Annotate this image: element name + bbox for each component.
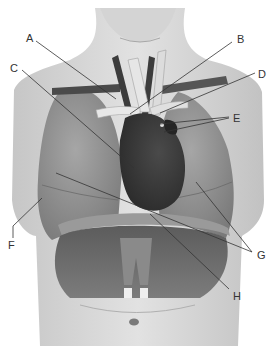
label-e: E	[233, 113, 240, 124]
label-f: F	[8, 240, 15, 251]
label-c: C	[10, 63, 18, 74]
heart	[120, 113, 186, 210]
diaphragm	[55, 213, 230, 298]
label-b: B	[237, 34, 244, 45]
label-h: H	[233, 291, 241, 302]
anatomy-diagram: A B C D E F G H	[0, 0, 276, 346]
label-a: A	[26, 33, 33, 44]
label-g: G	[257, 250, 266, 261]
label-d: D	[258, 69, 266, 80]
